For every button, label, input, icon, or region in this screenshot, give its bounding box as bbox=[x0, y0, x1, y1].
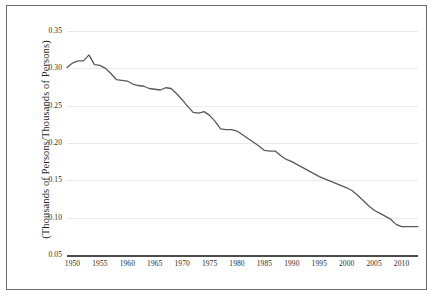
y-axis-tick-label: 0.25 bbox=[48, 102, 62, 110]
chart-figure: (Thousands of Persons/Thousands of Perso… bbox=[0, 0, 434, 297]
x-axis-tick-label: 1960 bbox=[120, 259, 135, 268]
x-axis-tick-label: 2010 bbox=[394, 259, 409, 268]
x-axis-tick-label: 1970 bbox=[174, 259, 189, 268]
y-axis-tick-label: 0.10 bbox=[48, 214, 62, 222]
x-axis-line bbox=[67, 255, 418, 257]
x-axis-tick-label: 1995 bbox=[312, 259, 327, 268]
x-axis-tick-label: 1985 bbox=[257, 259, 272, 268]
x-axis-tick-label: 1965 bbox=[147, 259, 162, 268]
y-axis-tick-labels: 0.350.300.250.200.150.100.05 bbox=[0, 0, 62, 297]
line-series bbox=[67, 31, 418, 255]
y-axis-tick-label: 0.30 bbox=[48, 64, 62, 72]
x-axis-tick-label: 2005 bbox=[366, 259, 381, 268]
y-axis-tick-label: 0.35 bbox=[48, 27, 62, 35]
x-axis-tick-label: 1980 bbox=[229, 259, 244, 268]
y-axis-tick-label: 0.05 bbox=[48, 251, 62, 259]
plot-area bbox=[67, 31, 418, 255]
x-axis-tick-label: 1950 bbox=[65, 259, 80, 268]
x-axis-tick-label: 2000 bbox=[339, 259, 354, 268]
y-axis-tick-label: 0.20 bbox=[48, 139, 62, 147]
x-axis-tick-label: 1955 bbox=[92, 259, 107, 268]
y-axis-tick-label: 0.15 bbox=[48, 176, 62, 184]
series-line bbox=[67, 55, 418, 227]
x-axis-tick-label: 1975 bbox=[202, 259, 217, 268]
x-axis-tick-label: 1990 bbox=[284, 259, 299, 268]
